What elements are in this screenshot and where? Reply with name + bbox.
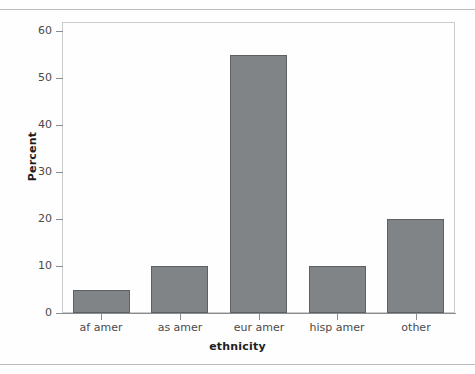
y-tick-mark	[56, 31, 63, 32]
top-divider	[0, 9, 475, 10]
y-tick-label: 0	[22, 307, 52, 318]
y-tick-mark	[56, 313, 63, 314]
chart-page: 0102030405060 af ameras amereur amerhisp…	[0, 0, 475, 374]
x-tick-mark	[337, 314, 338, 320]
bar	[387, 219, 444, 313]
y-tick-mark	[56, 78, 63, 79]
y-axis-title: Percent	[26, 117, 39, 197]
y-tick-mark	[56, 219, 63, 220]
bar	[73, 290, 130, 313]
x-tick-mark	[416, 314, 417, 320]
y-tick-mark	[56, 125, 63, 126]
x-tick-label: other	[366, 322, 466, 333]
y-tick-label: 20	[22, 213, 52, 224]
y-axis-line	[62, 22, 63, 314]
y-tick-label: 50	[22, 72, 52, 83]
bar	[309, 266, 366, 313]
bar	[230, 55, 287, 313]
x-tick-mark	[101, 314, 102, 320]
y-tick-mark	[56, 266, 63, 267]
x-tick-mark	[180, 314, 181, 320]
y-tick-label: 60	[22, 25, 52, 36]
y-tick-mark	[56, 172, 63, 173]
bottom-divider	[0, 364, 475, 365]
x-tick-mark	[259, 314, 260, 320]
bar	[151, 266, 208, 313]
y-tick-label: 10	[22, 260, 52, 271]
x-axis-title: ethnicity	[0, 340, 475, 353]
